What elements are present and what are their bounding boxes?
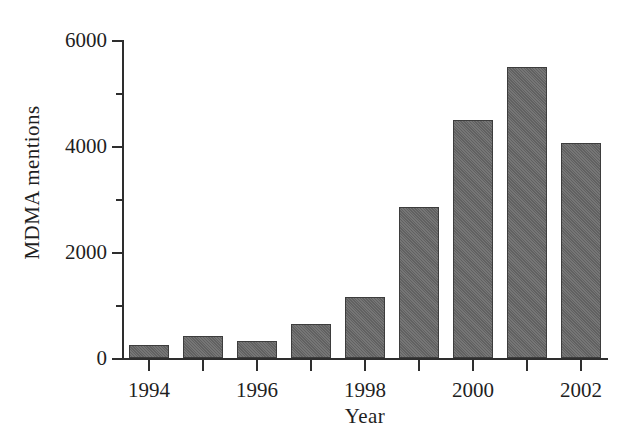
bar	[507, 67, 548, 359]
y-axis-tick-major	[112, 358, 122, 360]
bar	[183, 336, 224, 358]
bar	[345, 297, 386, 358]
x-axis-tick-minor	[526, 360, 528, 371]
x-axis-tick-major	[364, 360, 366, 371]
bar	[453, 120, 494, 359]
y-axis-title: MDMA mentions	[20, 73, 45, 293]
x-axis-tick-major	[148, 360, 150, 371]
y-axis-tick-major	[112, 40, 122, 42]
y-axis-tick-label: 6000	[65, 28, 107, 53]
y-axis-tick-label: 4000	[65, 134, 107, 159]
x-axis-tick-label: 2002	[560, 378, 602, 403]
y-axis-tick-minor	[116, 93, 122, 95]
x-axis-tick-label: 2000	[452, 378, 494, 403]
x-axis-title: Year	[122, 404, 608, 429]
y-axis-tick-major	[112, 252, 122, 254]
y-axis-tick-minor	[116, 305, 122, 307]
bar	[291, 324, 332, 358]
x-axis-tick-major	[472, 360, 474, 371]
x-axis-tick-major	[256, 360, 258, 371]
plot-area: 0200040006000 19941996199820002002	[122, 40, 608, 358]
x-axis-tick-label: 1996	[236, 378, 278, 403]
bar	[129, 345, 170, 358]
x-axis-tick-minor	[202, 360, 204, 371]
x-axis-tick-major	[580, 360, 582, 371]
y-axis-tick-minor	[116, 199, 122, 201]
bar	[399, 207, 440, 358]
bar-chart-figure: MDMA mentions Year 0200040006000 1994199…	[0, 0, 635, 446]
x-axis-tick-label: 1998	[344, 378, 386, 403]
y-axis-tick-major	[112, 146, 122, 148]
bar	[561, 143, 602, 358]
x-axis-tick-minor	[418, 360, 420, 371]
y-axis-tick-label: 0	[97, 346, 108, 371]
x-axis-tick-label: 1994	[128, 378, 170, 403]
x-axis-tick-minor	[310, 360, 312, 371]
y-axis-line	[122, 40, 124, 359]
y-axis-tick-label: 2000	[65, 240, 107, 265]
bar	[237, 341, 278, 358]
